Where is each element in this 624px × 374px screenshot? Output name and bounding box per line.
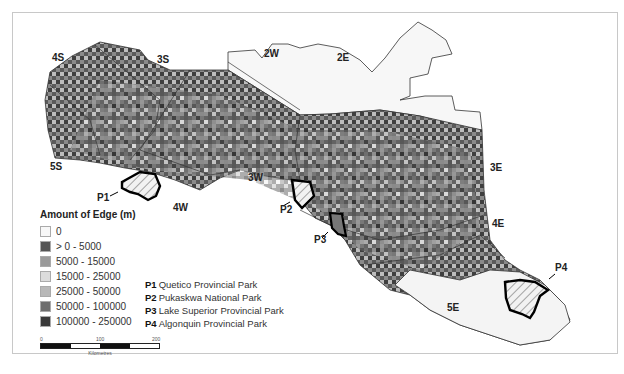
zone-label-5s: 5S (50, 161, 62, 172)
legend-swatch (40, 316, 51, 327)
zone-label-3s: 3S (157, 54, 169, 65)
park-item: P1Quetico Provincial Park (145, 278, 284, 291)
zone-label-4e: 4E (492, 218, 504, 229)
legend-item: 15000 - 25000 (40, 269, 136, 284)
scale-unit: Kilometres (40, 350, 160, 356)
zone-label-2e: 2E (337, 52, 349, 63)
legend-item: 5000 - 15000 (40, 254, 136, 269)
legend-swatch (40, 256, 51, 267)
parks-list: P1Quetico Provincial Park P2Pukaskwa Nat… (145, 278, 284, 330)
park-name: Quetico Provincial Park (159, 279, 258, 290)
legend-item: 25000 - 50000 (40, 284, 136, 299)
park-code: P3 (145, 305, 157, 316)
park-code: P4 (145, 318, 157, 329)
park-code: P1 (145, 279, 157, 290)
legend-item: 50000 - 100000 (40, 299, 136, 314)
legend-label: 100000 - 250000 (56, 316, 132, 327)
legend-label: 5000 - 15000 (56, 256, 115, 267)
park-item: P4Algonquin Provincial Park (145, 317, 284, 330)
legend-label: 25000 - 50000 (56, 286, 121, 297)
zone-southeast-region (395, 270, 570, 345)
park-item: P2Pukaskwa National Park (145, 291, 284, 304)
park-name: Lake Superior Provincial Park (159, 305, 284, 316)
legend-item: > 0 - 5000 (40, 239, 136, 254)
legend-swatch (40, 226, 51, 237)
legend-label: 0 (56, 226, 62, 237)
legend-swatch (40, 271, 51, 282)
park-label-p2: P2 (280, 204, 292, 215)
zone-label-3w: 3W (248, 172, 263, 183)
park-label-p1: P1 (97, 192, 109, 203)
zone-label-2w: 2W (264, 48, 279, 59)
zone-label-5e: 5E (447, 302, 459, 313)
legend-item: 100000 - 250000 (40, 314, 136, 329)
legend-swatch (40, 286, 51, 297)
legend-swatch (40, 241, 51, 252)
zone-label-4w: 4W (173, 202, 188, 213)
legend-item: 0 (40, 224, 136, 239)
legend-label: > 0 - 5000 (56, 241, 101, 252)
scale-tick: 100 (96, 336, 104, 342)
scale-tick: 0 (40, 336, 43, 342)
park-name: Algonquin Provincial Park (159, 318, 267, 329)
legend: Amount of Edge (m) 0 > 0 - 5000 5000 - 1… (40, 209, 136, 329)
park-label-p4: P4 (555, 262, 567, 273)
park-code: P2 (145, 292, 157, 303)
scale-bar: 0 100 200 Kilometres (40, 336, 160, 356)
legend-title: Amount of Edge (m) (40, 209, 136, 220)
legend-label: 15000 - 25000 (56, 271, 121, 282)
scale-tick: 200 (152, 336, 160, 342)
park-item: P3Lake Superior Provincial Park (145, 304, 284, 317)
park-name: Pukaskwa National Park (159, 292, 262, 303)
legend-label: 50000 - 100000 (56, 301, 126, 312)
park-label-p3: P3 (314, 234, 326, 245)
legend-swatch (40, 301, 51, 312)
zone-label-4s: 4S (52, 52, 64, 63)
zone-label-3e: 3E (490, 162, 502, 173)
park-p1-quetico-outline (122, 172, 160, 200)
